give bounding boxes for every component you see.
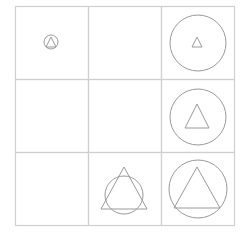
grid-cell-r1-c2 bbox=[162, 80, 235, 153]
circle-shape bbox=[105, 176, 143, 214]
triangle-shape bbox=[101, 167, 147, 209]
triangle-shape bbox=[174, 167, 220, 208]
grid-cell-r1-c1 bbox=[89, 80, 162, 153]
cell-border bbox=[16, 153, 89, 226]
grid-cell-r0-c0 bbox=[16, 7, 89, 80]
grid-cell-r2-c1 bbox=[89, 153, 162, 226]
cell-border bbox=[89, 153, 162, 226]
triangle-shape bbox=[46, 37, 56, 47]
cell-border bbox=[162, 7, 235, 80]
puzzle-grid bbox=[0, 0, 244, 244]
circle-shape bbox=[170, 89, 226, 145]
cell-border bbox=[162, 153, 235, 226]
circle-shape bbox=[170, 15, 226, 71]
cell-border bbox=[89, 80, 162, 153]
triangle-shape bbox=[185, 104, 209, 128]
grid-cell-r1-c0 bbox=[16, 80, 89, 153]
grid-cell-r2-c2 bbox=[162, 153, 235, 226]
cell-border bbox=[16, 80, 89, 153]
triangle-shape bbox=[192, 37, 202, 47]
cell-border bbox=[16, 7, 89, 80]
cell-border bbox=[162, 80, 235, 153]
grid-cell-r0-c1 bbox=[89, 7, 162, 80]
grid-cell-r2-c0 bbox=[16, 153, 89, 226]
cell-border bbox=[89, 7, 162, 80]
grid-cell-r0-c2 bbox=[162, 7, 235, 80]
